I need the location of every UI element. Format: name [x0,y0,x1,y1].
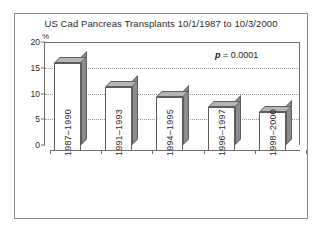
p-value-annotation: p = 0.0001 [215,50,258,60]
x-tick-mark-edge-0 [50,150,51,154]
x-axis-label-5: 1998–2000 [268,109,278,156]
bar-1-side-face [81,51,87,145]
y-tick-label-20: 20 [31,37,40,47]
x-tick-mark-2 [152,150,153,154]
y-tick-label-10: 10 [31,89,40,99]
x-axis-label-2: 1991–1993 [114,109,124,156]
y-axis-tick-labels: 20 15 10 5 0 [18,42,40,145]
y-tick-label-5: 5 [35,114,40,124]
chart-figure: US Cad Pancreas Transplants 10/1/1987 to… [0,0,322,233]
chart-title: US Cad Pancreas Transplants 10/1/1987 to… [0,18,322,29]
x-axis-label-4: 1996–1997 [217,109,227,156]
p-value-number: = 0.0001 [221,50,259,60]
y-tick-label-0: 0 [35,140,40,150]
x-tick-mark-edge-5 [306,150,307,154]
x-axis-label-1: 1987–1990 [63,109,73,156]
y-tick-label-15: 15 [31,63,40,73]
x-tick-mark-4 [255,150,256,154]
y-axis-unit-label: % [42,32,49,41]
plot-top-axis-line [44,42,300,43]
x-tick-mark-1 [101,150,102,154]
x-axis-label-3: 1994–1995 [165,109,175,156]
baseline-front [50,150,300,151]
x-tick-mark-3 [204,150,205,154]
plot-right-axis-line [299,42,300,145]
